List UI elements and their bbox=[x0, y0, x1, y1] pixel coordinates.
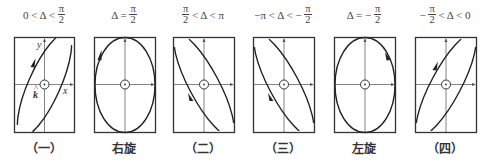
x-label: x bbox=[62, 85, 68, 96]
y-label: y bbox=[36, 39, 42, 50]
ellipse-panel-5 bbox=[335, 38, 396, 133]
ellipse-panel-2 bbox=[95, 38, 156, 133]
ellipse-panel-6 bbox=[406, 28, 486, 143]
polarization-diagrams: y x k ^ bbox=[0, 0, 487, 165]
ellipse-panel-3 bbox=[164, 28, 244, 143]
ellipse-panel-1: y x k ^ bbox=[7, 27, 82, 142]
ellipse-panel-4 bbox=[244, 28, 324, 143]
rotation-arrow-icon bbox=[98, 50, 102, 61]
rotation-arrow-icon bbox=[31, 59, 36, 68]
